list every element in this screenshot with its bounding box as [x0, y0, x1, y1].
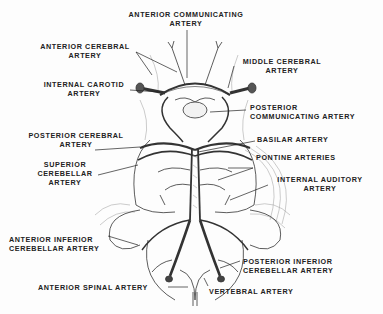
label-line: INTERNAL AUDITORY	[268, 175, 372, 184]
label-posterior-inferior-cerebellar-artery: POSTERIOR INFERIOR CEREBELLAR ARTERY	[243, 257, 333, 275]
label-line: ARTERY	[30, 51, 140, 60]
label-middle-cerebral-artery: MIDDLE CEREBRAL ARTERY	[232, 57, 332, 75]
label-basilar-artery: BASILAR ARTERY	[257, 135, 328, 144]
label-internal-carotid-artery: INTERNAL CAROTID ARTERY	[36, 80, 132, 98]
label-anterior-communicating-artery: ANTERIOR COMMUNICATING ARTERY	[116, 10, 256, 28]
label-line: BASILAR ARTERY	[257, 135, 328, 144]
label-line: CEREBELLAR ARTERY	[243, 266, 333, 275]
label-line: ANTERIOR CEREBRAL	[30, 42, 140, 51]
label-superior-cerebellar-artery: SUPERIOR CEREBELLAR ARTERY	[30, 160, 100, 187]
label-line: ARTERY	[20, 140, 132, 149]
label-line: INTERNAL CAROTID	[36, 80, 132, 89]
label-line: POSTERIOR CEREBRAL	[20, 131, 132, 140]
label-line: ARTERY	[232, 66, 332, 75]
label-line: ARTERY	[116, 19, 256, 28]
label-posterior-communicating-artery: POSTERIOR COMMUNICATING ARTERY	[250, 103, 355, 121]
label-pontine-arteries: PONTINE ARTERIES	[256, 153, 336, 162]
label-posterior-cerebral-artery: POSTERIOR CEREBRAL ARTERY	[20, 131, 132, 149]
label-line: ANTERIOR COMMUNICATING	[116, 10, 256, 19]
label-anterior-cerebral-artery: ANTERIOR CEREBRAL ARTERY	[30, 42, 140, 60]
label-line: ARTERY	[36, 89, 132, 98]
label-vertebral-artery: VERTEBRAL ARTERY	[209, 287, 293, 296]
label-anterior-spinal-artery: ANTERIOR SPINAL ARTERY	[38, 283, 148, 292]
label-line: SUPERIOR	[30, 160, 100, 169]
label-anterior-inferior-cerebellar-artery: ANTERIOR INFERIOR CEREBELLAR ARTERY	[9, 235, 99, 253]
label-line: PONTINE ARTERIES	[256, 153, 336, 162]
label-line: VERTEBRAL ARTERY	[209, 287, 293, 296]
artery-diagram: ANTERIOR COMMUNICATING ARTERY ANTERIOR C…	[0, 0, 383, 314]
label-line: COMMUNICATING ARTERY	[250, 112, 355, 121]
label-line: POSTERIOR INFERIOR	[243, 257, 333, 266]
label-line: ARTERY	[30, 178, 100, 187]
label-line: POSTERIOR	[250, 103, 355, 112]
label-line: CEREBELLAR	[30, 169, 100, 178]
label-line: ANTERIOR INFERIOR	[9, 235, 99, 244]
label-line: ARTERY	[268, 184, 372, 193]
label-line: ANTERIOR SPINAL ARTERY	[38, 283, 148, 292]
label-line: MIDDLE CEREBRAL	[232, 57, 332, 66]
label-internal-auditory-artery: INTERNAL AUDITORY ARTERY	[268, 175, 372, 193]
label-line: CEREBELLAR ARTERY	[9, 244, 99, 253]
